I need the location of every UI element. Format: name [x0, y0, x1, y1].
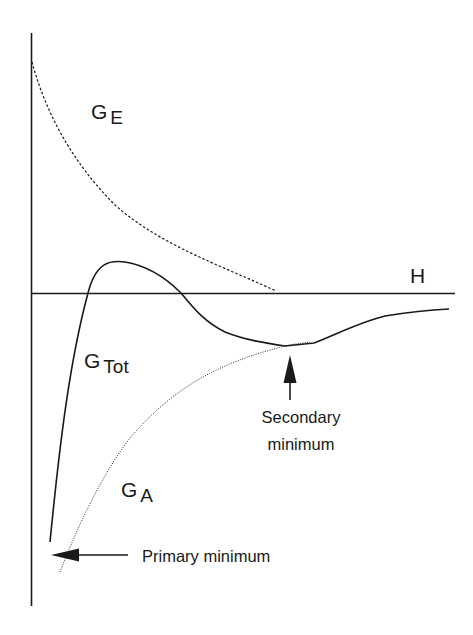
label-g-e-subscript: E: [110, 107, 123, 128]
primary-minimum-label: Primary minimum: [142, 548, 270, 565]
primary-minimum-arrow-icon: [51, 549, 128, 562]
curve-g-tot: [50, 261, 449, 542]
curve-g-a: [60, 342, 310, 572]
label-g-a-subscript: A: [140, 485, 153, 506]
label-g-tot-subscript: Tot: [103, 356, 128, 377]
label-g-e: GE: [91, 101, 123, 122]
secondary-minimum-arrow-icon: [284, 355, 297, 400]
label-g-tot: GTot: [84, 350, 129, 371]
label-g-a: GA: [121, 479, 153, 500]
label-g-a-symbol: G: [121, 478, 137, 501]
secondary-minimum-label: Secondary minimum: [240, 409, 362, 452]
label-g-tot-symbol: G: [84, 349, 100, 372]
secondary-minimum-line1: Secondary: [240, 409, 362, 426]
curve-g-e: [32, 62, 276, 291]
diagram-canvas: [0, 0, 473, 635]
secondary-minimum-line2: minimum: [240, 436, 362, 453]
axis-label-h: H: [410, 265, 425, 286]
label-g-e-symbol: G: [91, 100, 107, 123]
